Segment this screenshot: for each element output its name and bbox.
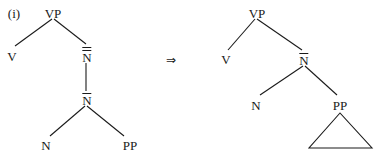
left-node-n-bar: N (82, 94, 91, 107)
edge-vp-v-right (228, 19, 255, 50)
edge-vp-nbar-right (257, 19, 302, 50)
edge-vp-nbar2-left (54, 19, 86, 44)
right-node-n-bar: N (299, 54, 308, 67)
right-node-vp: VP (249, 7, 266, 20)
left-node-n-double-bar: N (82, 51, 91, 64)
right-node-pp: PP (333, 99, 347, 112)
left-node-vp: VP (45, 7, 62, 20)
edge-nbar-pp-right (305, 66, 337, 95)
edge-nbar-n-left (50, 106, 85, 136)
pp-triangle (309, 113, 372, 148)
left-node-v: V (7, 50, 16, 63)
edge-nbar-n-right (260, 66, 303, 95)
right-node-v: V (221, 53, 230, 66)
right-node-n: N (251, 99, 260, 112)
left-node-n: N (41, 139, 50, 152)
left-node-pp: PP (123, 139, 137, 152)
transformation-arrow: ⇒ (166, 54, 176, 67)
tree-edges (0, 0, 377, 158)
edge-nbar-pp-left (87, 106, 124, 136)
edge-vp-v-left (15, 19, 52, 46)
example-number-label: (i) (8, 7, 20, 20)
